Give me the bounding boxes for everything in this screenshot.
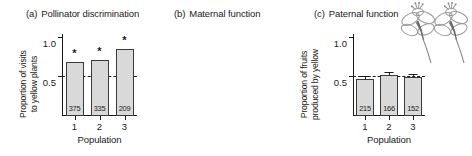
flower-left-stem [423, 39, 431, 63]
x-tick-mark [125, 116, 126, 120]
x-tick-mark [75, 116, 76, 120]
panel-a-title-text: Pollinator discrimination [41, 8, 139, 19]
panel-a-bars: *375*335*209 [62, 34, 137, 116]
flower-right-icon [433, 2, 470, 38]
bar[interactable]: 375 [66, 62, 84, 116]
panel-a-plot-area: *375*335*209 123 Population 0.51.0 [62, 34, 137, 116]
flower-illustration-group [398, 2, 472, 64]
panel-b-tag: (b) [174, 8, 185, 19]
x-tick-mark [100, 116, 101, 120]
panel-a-y-axis-label-line1: Proportion of visits [18, 50, 29, 118]
x-tick-label: 3 [116, 121, 134, 132]
panel-c-title-text: Paternal function [329, 8, 399, 19]
bar[interactable]: 209 [116, 49, 134, 116]
figure-panel-group: (a)Pollinator discrimination Proportion … [0, 0, 472, 156]
flower-right-stem [456, 39, 464, 63]
panel-a-y-axis-label-line2: to yellow plants [29, 50, 40, 118]
panel-a-x-tick-labels: 123 [62, 116, 137, 132]
bar-group: *209 [116, 34, 134, 116]
panel-a-y-axis-label: Proportion of visits to yellow plants [18, 50, 39, 118]
x-tick-label: 2 [91, 121, 109, 132]
significance-marker: * [97, 47, 101, 55]
bar-sample-size: 375 [69, 104, 80, 113]
panel-b-title: (b)Maternal function [174, 8, 261, 19]
bar-sample-size: 335 [94, 104, 105, 113]
panel-a-title: (a)Pollinator discrimination [26, 8, 139, 19]
panel-c-tag: (c) [314, 8, 325, 19]
flower-illustrations-svg [398, 2, 472, 64]
bar-group: *375 [66, 34, 84, 116]
flower-left-icon [400, 2, 437, 38]
bar-sample-size: 209 [119, 104, 130, 113]
panel-a-y-tick [58, 76, 62, 77]
significance-marker: * [122, 36, 126, 44]
panel-b-title-text: Maternal function [189, 8, 260, 19]
panel-c-title: (c)Paternal function [314, 8, 398, 19]
x-tick-label: 1 [66, 121, 84, 132]
bar-group: *335 [91, 34, 109, 116]
panel-a-tag: (a) [26, 8, 37, 19]
panel-a-y-tick [58, 37, 62, 38]
panel-pollinator-discrimination: (a)Pollinator discrimination Proportion … [0, 0, 155, 156]
panel-maternal-function: (b)Maternal function Proportion of fruit… [148, 0, 296, 156]
significance-marker: * [72, 49, 76, 57]
bar[interactable]: 335 [91, 60, 109, 116]
panel-a-x-axis-label: Population [62, 134, 137, 145]
